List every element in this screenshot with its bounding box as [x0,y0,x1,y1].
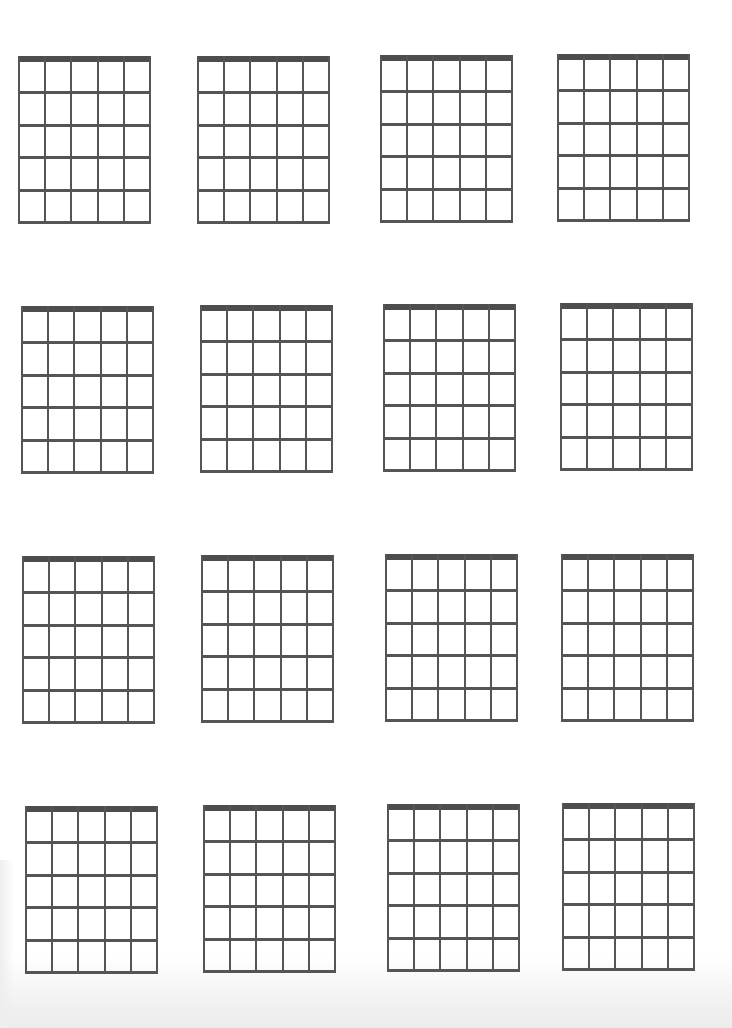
fret-line [562,936,695,939]
nut [203,805,336,811]
fret-line [22,591,155,594]
fret-line [383,404,516,407]
string-line [227,555,229,723]
chord-diagram-r3-c3 [385,554,518,722]
string-line [197,56,199,224]
string-line [74,556,76,724]
string-line [587,554,589,722]
string-line [435,304,437,472]
nut [557,54,690,60]
string-line [130,806,132,974]
string-line [334,805,336,973]
fret-line [18,221,151,224]
fret-line [21,406,154,409]
fret-line [385,622,518,625]
string-line [328,56,330,224]
fret-line [18,156,151,159]
string-line [561,554,563,722]
fret-line [21,471,154,474]
string-line [516,554,518,722]
chord-diagram-r1-c4 [557,54,690,222]
fret-line [383,339,516,342]
nut [197,56,330,62]
string-line [462,304,464,472]
string-line [666,554,668,722]
string-line [488,304,490,472]
string-line [518,804,520,972]
fret-line [21,374,154,377]
string-line [252,305,254,473]
fret-line [25,939,158,942]
fret-line [387,839,520,842]
string-line [200,305,202,473]
string-line [439,804,441,972]
nut [380,55,513,61]
nut [560,303,693,309]
fret-line [383,437,516,440]
fret-line [561,719,694,722]
string-line [101,556,103,724]
string-line [249,56,251,224]
string-line [586,303,588,471]
fret-line [25,906,158,909]
string-line [639,303,641,471]
string-line [306,555,308,723]
chord-sheet-page [0,0,732,1028]
string-line [97,56,99,224]
string-line [667,803,669,971]
string-line [104,806,106,974]
string-line [203,805,205,973]
string-line [588,803,590,971]
fret-line [201,590,334,593]
fret-line [561,654,694,657]
string-line [411,554,413,722]
fret-line [22,721,155,724]
string-line [21,306,23,474]
string-line [636,54,638,222]
fret-line [22,624,155,627]
fret-line [383,372,516,375]
chord-diagram-r4-c2 [203,805,336,973]
fret-line [200,470,333,473]
string-line [406,55,408,223]
string-line [25,806,27,974]
string-line [583,54,585,222]
string-line [255,805,257,973]
fret-line [18,189,151,192]
fret-line [385,654,518,657]
string-line [47,306,49,474]
fret-line [385,719,518,722]
fret-line [203,970,336,973]
string-line [641,803,643,971]
string-line [492,804,494,972]
string-line [22,556,24,724]
string-line [70,56,72,224]
fret-line [197,91,330,94]
string-line [613,554,615,722]
fret-line [561,589,694,592]
string-line [409,304,411,472]
chord-diagram-r3-c4 [561,554,694,722]
fret-line [560,436,693,439]
nut [383,304,516,310]
string-line [437,554,439,722]
string-line [331,305,333,473]
fret-line [380,123,513,126]
string-line [511,55,513,223]
string-line [464,554,466,722]
string-line [280,555,282,723]
string-line [413,804,415,972]
string-line [123,56,125,224]
string-line [609,54,611,222]
string-line [557,54,559,222]
string-line [308,805,310,973]
chord-diagram-r3-c1 [22,556,155,724]
nut [25,806,158,812]
nut [22,556,155,562]
string-line [385,554,387,722]
string-line [692,554,694,722]
string-line [100,306,102,474]
nut [387,804,520,810]
fret-line [387,937,520,940]
string-line [51,806,53,974]
